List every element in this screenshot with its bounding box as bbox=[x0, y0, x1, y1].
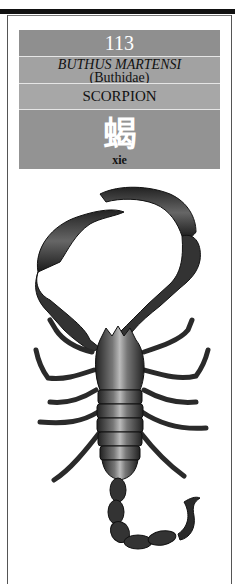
scorpion-icon bbox=[20, 180, 220, 550]
scientific-name-band: BUTHUS MARTENSI (Buthidae) bbox=[19, 56, 220, 83]
chinese-name-band: 蝎 xie bbox=[19, 109, 220, 169]
top-thin-rule bbox=[7, 15, 232, 16]
entry-header-card: 113 BUTHUS MARTENSI (Buthidae) SCORPION … bbox=[19, 30, 220, 170]
left-border bbox=[7, 15, 8, 584]
common-name-band: SCORPION bbox=[19, 83, 220, 109]
right-border bbox=[231, 15, 232, 584]
chinese-character: 蝎 bbox=[19, 110, 220, 154]
entry-number-band: 113 bbox=[19, 30, 220, 56]
entry-number: 113 bbox=[105, 32, 134, 54]
common-name: SCORPION bbox=[82, 88, 156, 104]
top-rule bbox=[0, 9, 235, 14]
scorpion-illustration bbox=[20, 180, 220, 550]
pinyin: xie bbox=[19, 154, 220, 166]
